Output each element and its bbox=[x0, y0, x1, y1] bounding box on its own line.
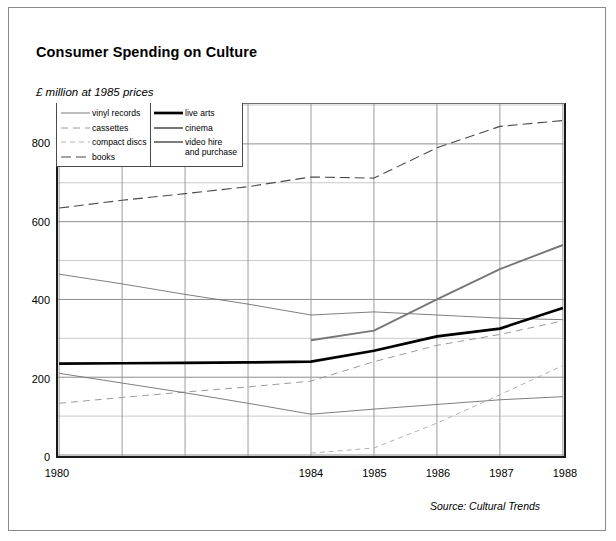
page-title: Consumer Spending on Culture bbox=[36, 44, 257, 60]
legend-item: cinema bbox=[153, 121, 241, 136]
x-axis-tick-label: 1987 bbox=[474, 467, 530, 479]
y-axis-tick-label: 400 bbox=[6, 294, 50, 306]
legend-line-swatch bbox=[60, 135, 92, 150]
legend-item: cassettes bbox=[60, 121, 152, 136]
y-axis-tick-label: 800 bbox=[6, 137, 50, 149]
legend-line-swatch bbox=[153, 106, 185, 121]
legend-item-label: vinyl records bbox=[92, 106, 140, 119]
legend-item: books bbox=[60, 150, 152, 165]
source-note: Source: Cultural Trends bbox=[430, 500, 540, 512]
series-line bbox=[311, 245, 563, 340]
legend-line-swatch bbox=[153, 135, 185, 150]
series-line bbox=[59, 308, 563, 364]
legend-column-left: vinyl recordscassettescompact discsbooks bbox=[60, 106, 152, 164]
legend: vinyl recordscassettescompact discsbooks… bbox=[56, 103, 243, 167]
x-axis-tick-label: 1986 bbox=[410, 467, 466, 479]
legend-item-label: video hire and purchase bbox=[185, 135, 237, 157]
series-line bbox=[59, 373, 563, 414]
x-axis-tick-label: 1985 bbox=[347, 467, 403, 479]
legend-item-label: cassettes bbox=[92, 121, 128, 134]
legend-item-label: live arts bbox=[185, 106, 215, 119]
legend-item-label: compact discs bbox=[92, 135, 146, 148]
legend-item: compact discs bbox=[60, 135, 152, 150]
chart-page: Consumer Spending on Culture £ million a… bbox=[0, 0, 616, 541]
y-axis-tick-label: 600 bbox=[6, 216, 50, 228]
series-line bbox=[59, 274, 563, 320]
legend-line-swatch bbox=[60, 121, 92, 136]
legend-item-label: books bbox=[92, 150, 115, 163]
legend-line-swatch bbox=[60, 150, 92, 165]
legend-line-swatch bbox=[60, 106, 92, 121]
legend-item: live arts bbox=[153, 106, 241, 121]
legend-column-right: live artscinemavideo hire and purchase bbox=[153, 106, 241, 150]
series-line bbox=[311, 366, 563, 454]
legend-line-swatch bbox=[153, 121, 185, 136]
legend-item: vinyl records bbox=[60, 106, 152, 121]
x-axis-tick-label: 1984 bbox=[283, 467, 339, 479]
legend-item-label: cinema bbox=[185, 121, 213, 134]
x-axis-tick-label: 1988 bbox=[537, 467, 593, 479]
legend-item: video hire and purchase bbox=[153, 135, 241, 150]
x-axis-tick-label: 1980 bbox=[29, 467, 85, 479]
axis-unit-label: £ million at 1985 prices bbox=[36, 86, 154, 98]
y-axis-tick-label: 0 bbox=[6, 451, 50, 463]
y-axis-tick-label: 200 bbox=[6, 373, 50, 385]
